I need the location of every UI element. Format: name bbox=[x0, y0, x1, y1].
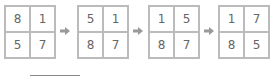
cell: 7 bbox=[174, 32, 199, 58]
cell: 5 bbox=[78, 6, 103, 32]
cell: 1 bbox=[219, 6, 244, 32]
grid-step-2: 5 1 8 7 bbox=[77, 5, 129, 59]
cell: 5 bbox=[5, 32, 30, 58]
cell: 7 bbox=[103, 32, 128, 58]
cell: 8 bbox=[149, 32, 174, 58]
grid-step-1: 8 1 5 7 bbox=[4, 5, 56, 59]
cell: 7 bbox=[244, 6, 269, 32]
cell: 8 bbox=[219, 32, 244, 58]
right-arrow-icon bbox=[133, 27, 143, 35]
right-arrow-icon bbox=[60, 27, 70, 35]
cell: 8 bbox=[78, 32, 103, 58]
grid-step-3: 1 5 8 7 bbox=[148, 5, 200, 59]
cell: 7 bbox=[30, 32, 55, 58]
grid-step-4: 1 7 8 5 bbox=[218, 5, 270, 59]
answer-blank-line bbox=[30, 75, 80, 76]
cell: 8 bbox=[5, 6, 30, 32]
cell: 5 bbox=[244, 32, 269, 58]
cell: 1 bbox=[30, 6, 55, 32]
cell: 1 bbox=[103, 6, 128, 32]
right-arrow-icon bbox=[204, 27, 214, 35]
cell: 1 bbox=[149, 6, 174, 32]
cell: 5 bbox=[174, 6, 199, 32]
